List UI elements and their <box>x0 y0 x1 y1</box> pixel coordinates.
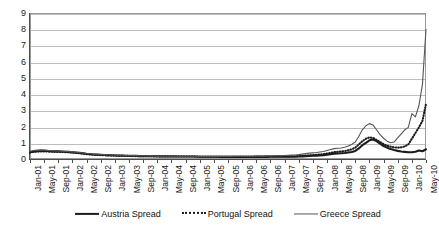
legend-label: Austria Spread <box>101 209 161 219</box>
x-tick <box>171 160 172 163</box>
series-line-greece-spread <box>30 29 426 156</box>
y-tick-label: 4 <box>21 90 26 99</box>
x-tick <box>58 160 59 163</box>
x-tick-label: May-10 <box>430 165 439 193</box>
x-tick <box>256 160 257 163</box>
x-tick <box>426 160 427 163</box>
y-axis: 0123456789 <box>0 13 26 159</box>
x-tick-label: May-04 <box>175 165 184 193</box>
x-tick-label: May-02 <box>90 165 99 193</box>
x-tick-label: Sep-01 <box>62 165 71 192</box>
chart-legend: Austria SpreadPortugal SpreadGreece Spre… <box>30 206 426 222</box>
x-tick <box>228 160 229 163</box>
x-tick-label: May-09 <box>387 165 396 193</box>
x-tick-label: Sep-06 <box>274 165 283 192</box>
legend-entry[interactable]: Greece Spread <box>294 209 381 219</box>
x-tick-label: May-01 <box>48 165 57 193</box>
x-tick <box>369 160 370 163</box>
x-tick-label: May-05 <box>217 165 226 193</box>
x-tick-label: Jan-04 <box>161 165 170 191</box>
solid-thin-line-icon <box>294 211 318 218</box>
y-tick-label: 1 <box>21 138 26 147</box>
legend-entry[interactable]: Austria Spread <box>75 209 161 219</box>
legend-label: Portugal Spread <box>208 209 273 219</box>
x-tick <box>157 160 158 163</box>
x-tick-label: Sep-04 <box>189 165 198 192</box>
x-tick <box>270 160 271 163</box>
x-tick-label: May-03 <box>133 165 142 193</box>
x-tick <box>327 160 328 163</box>
x-tick-label: Sep-08 <box>359 165 368 192</box>
x-tick-label: Sep-07 <box>316 165 325 192</box>
x-tick-label: Jan-03 <box>118 165 127 191</box>
x-tick <box>355 160 356 163</box>
x-tick <box>30 160 31 163</box>
sovereign-spread-line-chart: 0123456789 Jan-01May-01Sep-01Jan-02May-0… <box>0 0 439 230</box>
x-tick-label: Jan-05 <box>203 165 212 191</box>
y-tick-label: 6 <box>21 57 26 66</box>
x-tick <box>313 160 314 163</box>
legend-entry[interactable]: Portugal Spread <box>182 209 273 219</box>
legend-label: Greece Spread <box>320 209 381 219</box>
x-tick <box>101 160 102 163</box>
x-tick <box>200 160 201 163</box>
y-tick-label: 9 <box>21 9 26 18</box>
x-tick-label: Jan-08 <box>331 165 340 191</box>
x-tick <box>242 160 243 163</box>
x-tick-label: Jan-07 <box>288 165 297 191</box>
x-tick-label: Jan-01 <box>34 165 43 191</box>
x-tick <box>412 160 413 163</box>
solid-thick-line-icon <box>75 211 99 218</box>
x-tick <box>115 160 116 163</box>
y-tick-label: 3 <box>21 106 26 115</box>
x-tick <box>285 160 286 163</box>
x-tick <box>143 160 144 163</box>
x-tick-label: Sep-09 <box>401 165 410 192</box>
x-tick-label: Sep-05 <box>232 165 241 192</box>
x-tick <box>341 160 342 163</box>
x-tick <box>299 160 300 163</box>
series-layer <box>30 13 426 159</box>
x-tick <box>72 160 73 163</box>
x-tick <box>44 160 45 163</box>
x-tick-label: May-08 <box>345 165 354 193</box>
y-tick-label: 0 <box>21 155 26 164</box>
y-tick-label: 2 <box>21 122 26 131</box>
y-tick-label: 8 <box>21 25 26 34</box>
x-tick <box>87 160 88 163</box>
y-tick-label: 5 <box>21 73 26 82</box>
x-tick-label: May-06 <box>260 165 269 193</box>
series-line-portugal-spread <box>30 104 426 157</box>
x-tick-label: Jan-02 <box>76 165 85 191</box>
x-tick-label: May-07 <box>302 165 311 193</box>
x-tick <box>214 160 215 163</box>
x-tick <box>129 160 130 163</box>
x-tick-label: Jan-06 <box>246 165 255 191</box>
x-tick <box>384 160 385 163</box>
x-tick-label: Jan-10 <box>415 165 424 191</box>
y-tick-label: 7 <box>21 41 26 50</box>
x-tick <box>398 160 399 163</box>
x-tick-label: Jan-09 <box>373 165 382 191</box>
x-tick <box>186 160 187 163</box>
x-tick-label: Sep-02 <box>104 165 113 192</box>
x-tick-label: Sep-03 <box>147 165 156 192</box>
dotted-line-icon <box>182 211 206 218</box>
